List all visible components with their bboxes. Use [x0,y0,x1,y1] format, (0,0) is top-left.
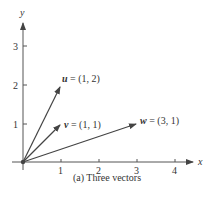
y-tick-1: 1 [13,119,18,130]
vector-u-label: u = (1, 2) [62,73,100,85]
y-tick-2: 2 [13,80,18,91]
y-axis-label: y [19,7,25,18]
vector-w-label: w = (3, 1) [140,115,179,127]
origin-point [21,160,25,164]
vector-v-label: v = (1, 1) [64,119,101,131]
y-tick-3: 3 [13,41,18,52]
x-axis-label: x [197,156,203,167]
figure-caption: (a) Three vectors [0,172,214,183]
vector-v: v = (1, 1) [23,119,101,162]
y-axis: y 1 2 3 [13,7,27,170]
three-vectors-figure: x 1 2 3 4 y 1 2 3 u = (1, 2) [0,0,214,205]
